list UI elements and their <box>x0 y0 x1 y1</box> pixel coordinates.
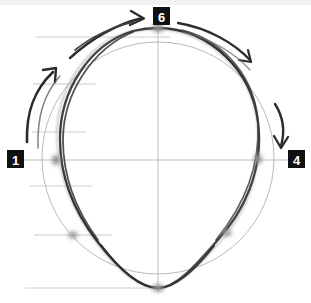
sketch-canvas: 6 1 4 <box>0 0 311 303</box>
direction-arrows-layer <box>0 0 311 303</box>
step-badge-right[interactable]: 4 <box>288 150 305 168</box>
arrow-upper-left-outer-icon <box>70 11 144 58</box>
arrow-right-short-icon <box>274 104 288 148</box>
arrow-upper-right-icon <box>178 23 251 70</box>
arrow-left-long-icon <box>27 68 60 148</box>
step-badge-top[interactable]: 6 <box>153 7 170 25</box>
step-badge-left[interactable]: 1 <box>7 150 24 168</box>
